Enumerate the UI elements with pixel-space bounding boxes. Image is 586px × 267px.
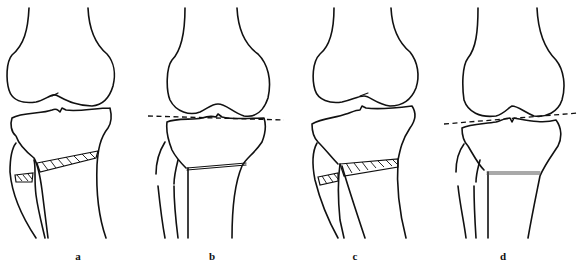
tibia-outline <box>11 108 111 238</box>
femur-outline <box>463 8 564 116</box>
fibula-outline <box>156 142 178 238</box>
panel-a: a <box>0 0 150 267</box>
panel-label-b: b <box>202 250 222 262</box>
panel-d: d <box>440 0 586 267</box>
osteotomy-line <box>187 163 246 170</box>
panel-b: b <box>140 0 300 267</box>
tibia-outline <box>167 114 266 238</box>
panel-label-a: a <box>68 250 88 262</box>
hatched-wedge-tibia <box>37 151 98 172</box>
fibula-outline <box>456 144 480 238</box>
panel-c: c <box>290 0 440 267</box>
panel-label-c: c <box>345 250 365 262</box>
fibula-outline <box>10 143 45 238</box>
knee-diagram-a <box>0 0 150 250</box>
knee-diagram-c <box>290 0 440 250</box>
panel-label-d: d <box>493 250 513 262</box>
hatched-wedge-tibia <box>340 159 398 176</box>
femur-outline <box>167 8 269 116</box>
knee-osteotomy-figure: a b <box>0 0 586 267</box>
femur-outline <box>313 8 418 106</box>
osteotomy-line <box>487 172 540 174</box>
femur-outline <box>7 8 114 106</box>
hatched-wedge-fibula <box>318 173 338 185</box>
fibula-outline <box>313 143 365 238</box>
knee-diagram-d <box>440 0 586 250</box>
hatched-wedge-fibula <box>15 173 33 182</box>
knee-diagram-b <box>140 0 300 250</box>
